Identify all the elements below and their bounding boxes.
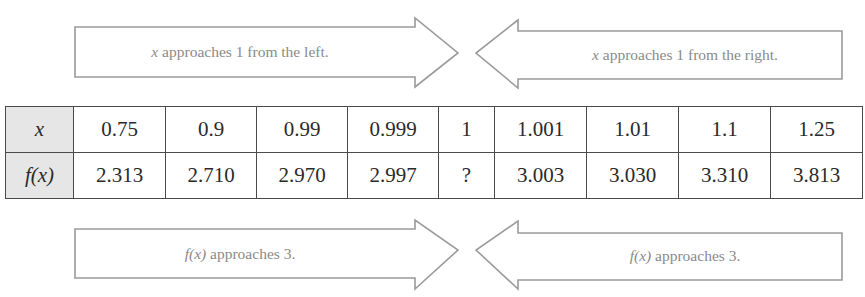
arrow-text: approaches 1 from the right. (599, 46, 778, 63)
table-cell: 0.9 (166, 107, 257, 153)
row-header-fx: f(x) (6, 153, 74, 199)
arrow-label-fx-left: f(x) approaches 3. (75, 244, 405, 264)
table-cell: 3.310 (679, 153, 771, 199)
table-cell: 0.999 (348, 107, 439, 153)
arrow-label-fx-right: f(x) approaches 3. (525, 246, 845, 266)
table-cell: 1 (439, 107, 495, 153)
table-cell: 1.001 (495, 107, 587, 153)
table-cell: 3.003 (495, 153, 587, 199)
variable-x: x (592, 46, 599, 63)
table-cell: 3.030 (587, 153, 679, 199)
table-cell: 2.997 (348, 153, 439, 199)
table-cell: 2.970 (257, 153, 348, 199)
table-cell: 1.25 (771, 107, 863, 153)
arrow-label-x-left: x approaches 1 from the left. (75, 42, 405, 62)
table-row-fx: f(x) 2.313 2.710 2.970 2.997 ? 3.003 3.0… (6, 153, 863, 199)
table-cell: 3.813 (771, 153, 863, 199)
table-cell: 0.99 (257, 107, 348, 153)
table-cell: 2.313 (74, 153, 166, 199)
table-cell: 2.710 (166, 153, 257, 199)
variable-fx: f(x) (630, 247, 652, 264)
arrow-text: approaches 3. (206, 245, 295, 262)
table-cell: ? (439, 153, 495, 199)
arrow-label-x-right: x approaches 1 from the right. (525, 45, 845, 65)
table-row-x: x 0.75 0.9 0.99 0.999 1 1.001 1.01 1.1 1… (6, 107, 863, 153)
row-header-x: x (6, 107, 74, 153)
table-cell: 0.75 (74, 107, 166, 153)
table-cell: 1.1 (679, 107, 771, 153)
variable-fx: f(x) (185, 245, 207, 262)
table-cell: 1.01 (587, 107, 679, 153)
arrow-text: approaches 3. (651, 247, 740, 264)
arrow-text: approaches 1 from the left. (158, 43, 328, 60)
values-table: x 0.75 0.9 0.99 0.999 1 1.001 1.01 1.1 1… (5, 106, 863, 199)
